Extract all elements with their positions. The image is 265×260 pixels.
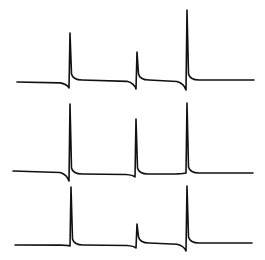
trace-line	[15, 186, 252, 251]
spike-trace-figure	[0, 0, 265, 260]
trace-line	[13, 103, 253, 181]
trace-plot	[0, 0, 265, 260]
trace-line	[17, 10, 254, 90]
